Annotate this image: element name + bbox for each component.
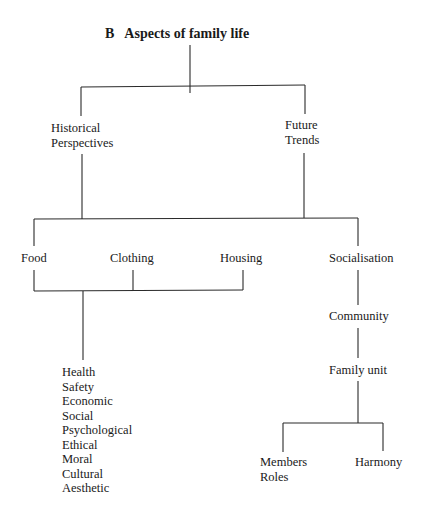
node-harmony: Harmony [355, 455, 402, 470]
connector-line [34, 218, 358, 219]
node-socialisation: Socialisation [329, 251, 394, 266]
node-historical-perspectives: Historical Perspectives [51, 121, 113, 150]
connector-line [81, 85, 305, 87]
node-future-trends: Future Trends [285, 118, 319, 147]
diagram-title: BAspects of family life [105, 26, 249, 42]
aspect-item: Social [62, 409, 132, 424]
node-future-line2: Trends [285, 133, 319, 148]
node-members-roles: Members Roles [260, 455, 307, 484]
node-clothing: Clothing [110, 251, 154, 266]
node-future-line1: Future [285, 118, 319, 133]
aspect-item: Cultural [62, 467, 132, 482]
aspect-item: Psychological [62, 423, 132, 438]
node-roles-line: Roles [260, 470, 307, 485]
aspect-item: Aesthetic [62, 481, 132, 496]
aspects-list: Health Safety Economic Social Psychologi… [62, 365, 132, 496]
node-members-line: Members [260, 455, 307, 470]
node-historical-line2: Perspectives [51, 136, 113, 151]
node-historical-line1: Historical [51, 121, 113, 136]
node-community: Community [329, 309, 389, 324]
aspect-item: Ethical [62, 438, 132, 453]
node-family-unit: Family unit [329, 363, 387, 378]
aspect-item: Health [62, 365, 132, 380]
node-housing: Housing [220, 251, 262, 266]
connector-line [34, 290, 243, 291]
title-text: Aspects of family life [124, 26, 249, 41]
aspect-item: Economic [62, 394, 132, 409]
family-life-diagram: BAspects of family life Historical Persp… [0, 0, 425, 517]
title-letter: B [105, 26, 114, 41]
aspect-item: Moral [62, 452, 132, 467]
node-food: Food [21, 251, 47, 266]
aspect-item: Safety [62, 380, 132, 395]
